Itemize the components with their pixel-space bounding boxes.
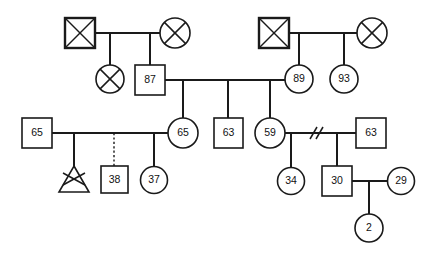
node-pregnancy-deceased[interactable] bbox=[59, 166, 89, 192]
node-male-65[interactable]: 65 bbox=[22, 118, 52, 148]
node-female-65[interactable]: 65 bbox=[168, 118, 198, 148]
node-g1-female2-deceased[interactable] bbox=[357, 18, 387, 48]
union-87-89 bbox=[165, 80, 285, 118]
node-g1-male2-deceased[interactable] bbox=[259, 18, 289, 48]
node-age-label: 29 bbox=[395, 174, 407, 186]
node-age-label: 65 bbox=[31, 126, 43, 138]
node-female-34[interactable]: 34 bbox=[278, 168, 305, 195]
node-female-89[interactable]: 89 bbox=[285, 65, 313, 93]
node-age-label: 63 bbox=[365, 126, 377, 138]
node-male-30[interactable]: 30 bbox=[322, 166, 352, 196]
node-male-38[interactable]: 38 bbox=[101, 166, 128, 193]
node-age-label: 30 bbox=[331, 174, 343, 186]
node-female-2[interactable]: 2 bbox=[355, 214, 383, 242]
node-age-label: 63 bbox=[223, 126, 235, 138]
genogram-canvas: 87 89 93 65 65 63 bbox=[0, 0, 438, 259]
node-female-93[interactable]: 93 bbox=[330, 65, 358, 93]
union-59-63-divorced bbox=[285, 127, 356, 167]
node-age-label: 34 bbox=[285, 174, 297, 186]
union-couple-2 bbox=[289, 33, 357, 65]
node-age-label: 89 bbox=[293, 72, 305, 84]
node-male-63-sibling[interactable]: 63 bbox=[214, 118, 243, 148]
node-g1-female-deceased[interactable] bbox=[160, 18, 190, 48]
union-65-65 bbox=[52, 133, 168, 167]
node-female-29[interactable]: 29 bbox=[388, 168, 415, 195]
node-age-label: 2 bbox=[366, 221, 372, 233]
node-male-63-spouse[interactable]: 63 bbox=[356, 118, 386, 148]
node-age-label: 65 bbox=[177, 126, 189, 138]
node-female-37[interactable]: 37 bbox=[141, 167, 168, 194]
node-age-label: 87 bbox=[144, 73, 156, 85]
union-couple-1 bbox=[95, 33, 160, 65]
union-30-29 bbox=[352, 181, 388, 214]
genogram-diagram: 87 89 93 65 65 63 bbox=[0, 0, 438, 259]
node-female-59[interactable]: 59 bbox=[255, 118, 285, 148]
node-age-label: 93 bbox=[338, 72, 350, 84]
node-male-87[interactable]: 87 bbox=[135, 65, 165, 95]
node-g2-female-deceased[interactable] bbox=[96, 65, 124, 93]
node-g1-male-deceased[interactable] bbox=[65, 18, 95, 48]
node-age-label: 37 bbox=[148, 173, 160, 185]
node-age-label: 38 bbox=[109, 173, 121, 185]
node-age-label: 59 bbox=[264, 126, 276, 138]
